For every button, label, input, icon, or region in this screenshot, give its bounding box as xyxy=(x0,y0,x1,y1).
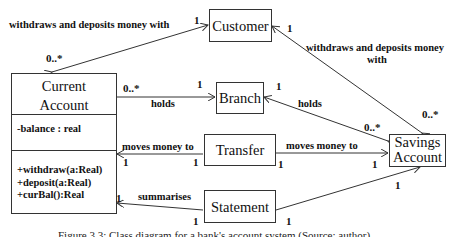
class-name: Statement xyxy=(211,199,269,215)
figure-caption: Figure 3.3: Class diagram for a bank's a… xyxy=(58,229,370,237)
multiplicity: 1 xyxy=(193,156,199,168)
class-name: Transfer xyxy=(216,142,265,158)
class-branch[interactable]: Branch xyxy=(216,82,264,114)
class-transfer[interactable]: Transfer xyxy=(204,134,276,166)
class-statement[interactable]: Statement xyxy=(204,190,276,223)
assoc-label: withdraws and deposits money xyxy=(306,42,444,54)
assoc-label: holds xyxy=(298,98,322,110)
class-name: Branch xyxy=(219,90,261,106)
operation: +curBal():Real xyxy=(12,189,116,202)
assoc-label: moves money to xyxy=(122,141,194,153)
operation: +withdraw(a:Real) xyxy=(12,164,116,177)
class-name: Current Account xyxy=(12,74,116,115)
class-name-line1: Current xyxy=(12,77,116,96)
multiplicity: 1 xyxy=(197,78,203,90)
class-name-line1: Savings xyxy=(390,135,445,150)
operation: +deposit(a:Real) xyxy=(12,177,116,190)
attribute: -balance : real xyxy=(12,123,116,136)
multiplicity: 1 xyxy=(123,156,129,168)
class-name-line2: Account xyxy=(12,96,116,115)
multiplicity: 1 xyxy=(116,192,122,204)
multiplicity: 1 xyxy=(372,158,378,170)
assoc-label: summarises xyxy=(138,191,191,203)
class-savings-account[interactable]: Savings Account xyxy=(389,134,446,167)
class-current-account[interactable]: Current Account -balance : real +withdra… xyxy=(11,73,117,214)
multiplicity: 1 xyxy=(194,14,200,26)
assoc-current-customer xyxy=(52,25,208,72)
operations-compartment: +withdraw(a:Real) +deposit(a:Real) +curB… xyxy=(12,150,116,213)
multiplicity: 1 xyxy=(278,158,284,170)
multiplicity: 1 xyxy=(286,215,292,227)
multiplicity: 1 xyxy=(287,22,293,34)
multiplicity: 0..* xyxy=(46,52,63,64)
multiplicity: 1 xyxy=(395,179,401,191)
class-name-line2: Account xyxy=(390,150,445,165)
multiplicity: 0..* xyxy=(364,121,381,133)
multiplicity: 0..* xyxy=(123,82,140,94)
class-name: Savings Account xyxy=(390,135,445,165)
class-customer[interactable]: Customer xyxy=(209,9,272,42)
assoc-savings-branch xyxy=(264,97,388,141)
assoc-statement-current xyxy=(117,203,203,210)
assoc-label: moves money to xyxy=(286,140,358,152)
class-name: Customer xyxy=(212,18,268,34)
multiplicity: 1 xyxy=(193,215,199,227)
assoc-label: holds xyxy=(151,98,175,110)
class-diagram: Customer Current Account -balance : real… xyxy=(0,0,458,237)
assoc-label: withdraws and deposits money with xyxy=(9,19,169,31)
attributes-compartment: -balance : real xyxy=(12,114,116,150)
multiplicity: 0..* xyxy=(422,108,439,120)
multiplicity: 1 xyxy=(276,80,282,92)
assoc-label: with xyxy=(367,54,387,66)
